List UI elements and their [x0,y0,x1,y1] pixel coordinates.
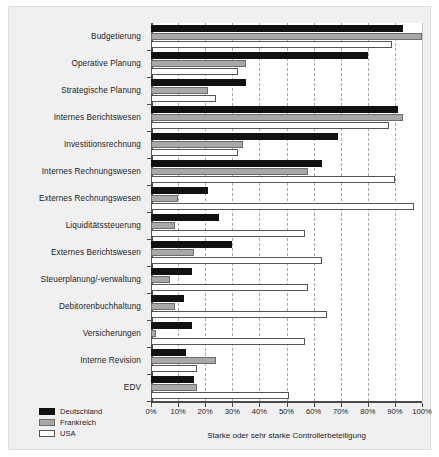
bar-usa [151,392,289,399]
bar-deutschland [151,349,186,356]
bar-group [151,349,422,373]
category-label: Operative Planung [71,59,141,68]
category-label: Steuerplanung/-verwaltung [41,275,141,284]
bar-usa [151,365,197,372]
bar-frankreich [151,141,243,148]
bar-usa [151,203,414,210]
y-tick [147,266,152,267]
x-tick-label: 10% [170,407,185,416]
bar-frankreich [151,60,246,67]
y-tick [147,293,152,294]
legend-label: Frankreich [60,418,96,427]
y-tick [147,347,152,348]
y-tick [147,131,152,132]
bar-usa [151,311,327,318]
bar-usa [151,95,216,102]
bar-usa [151,68,238,75]
x-tick-label: 30% [225,407,240,416]
bar-frankreich [151,33,422,40]
y-tick [147,212,152,213]
bar-frankreich [151,87,208,94]
bar-usa [151,338,305,345]
bar-frankreich [151,276,170,283]
category-label: Internes Berichtswesen [54,113,141,122]
category-label: Liquiditätssteuerung [66,221,141,230]
bar-usa [151,122,389,129]
legend-swatch-fr [39,419,55,426]
category-label: Budgetierung [91,32,141,41]
x-axis-title: Starke oder sehr starke Controllerbeteil… [151,431,422,440]
bar-frankreich [151,168,308,175]
bar-deutschland [151,187,208,194]
category-label: Internes Rechnungswesen [42,167,141,176]
bar-group [151,241,422,265]
x-tick-label: 50% [279,407,294,416]
bar-deutschland [151,214,219,221]
y-tick [147,239,152,240]
bar-group [151,376,422,400]
x-tick-label: 0% [146,407,157,416]
y-tick [147,104,152,105]
x-tick-label: 20% [198,407,213,416]
x-axis-tick-labels: 0%10%20%30%40%50%60%70%80%90%100% [151,407,422,421]
x-tick-label: 70% [333,407,348,416]
bar-deutschland [151,106,398,113]
bar-frankreich [151,357,216,364]
bar-deutschland [151,25,403,32]
legend-item: Frankreich [39,418,102,427]
bar-groups [151,23,422,401]
category-label: Debitorenbuchhaltung [59,302,141,311]
bar-group [151,133,422,157]
bar-group [151,295,422,319]
x-tick-label: 90% [387,407,402,416]
y-tick [147,158,152,159]
legend-item: USA [39,429,102,438]
bar-group [151,25,422,49]
bar-group [151,160,422,184]
x-tick-label: 100% [412,407,431,416]
bar-deutschland [151,52,368,59]
bar-deutschland [151,241,232,248]
bar-usa [151,284,308,291]
category-label: Externes Berichtswesen [51,248,141,257]
category-labels: BudgetierungOperative PlanungStrategisch… [13,23,147,401]
bar-group [151,214,422,238]
bar-frankreich [151,222,175,229]
bar-usa [151,230,305,237]
category-label: Strategische Planung [61,86,141,95]
x-tick-label: 80% [360,407,375,416]
bar-usa [151,257,322,264]
bar-frankreich [151,195,178,202]
legend-label: USA [60,429,76,438]
bar-usa [151,176,395,183]
bar-group [151,106,422,130]
legend-label: Deutschland [60,407,102,416]
x-axis-line [151,401,422,403]
chart-legend: DeutschlandFrankreichUSA [39,407,102,440]
bar-frankreich [151,303,175,310]
bar-group [151,52,422,76]
bar-deutschland [151,295,184,302]
bar-usa [151,149,238,156]
bar-group [151,79,422,103]
legend-item: Deutschland [39,407,102,416]
chart-figure: BudgetierungOperative PlanungStrategisch… [8,6,431,450]
bar-deutschland [151,160,322,167]
y-tick [147,77,152,78]
bar-group [151,187,422,211]
category-label: Externes Rechnungswesen [39,194,141,203]
x-tick-label: 60% [306,407,321,416]
bar-usa [151,41,392,48]
bar-deutschland [151,376,194,383]
bar-group [151,268,422,292]
y-tick [147,374,152,375]
category-label: Interne Revision [80,356,141,365]
bar-frankreich [151,114,403,121]
legend-swatch-de [39,408,55,415]
gridline-100 [422,23,423,401]
bar-group [151,322,422,346]
bar-deutschland [151,268,192,275]
category-label: Versicherungen [83,329,141,338]
bar-frankreich [151,384,197,391]
x-tick-label: 40% [252,407,267,416]
